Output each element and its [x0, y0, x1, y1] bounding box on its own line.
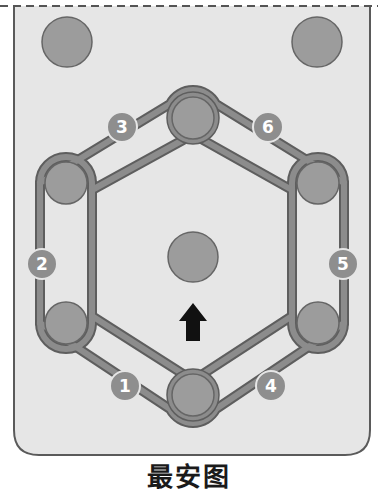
pulley-top-right	[292, 17, 342, 67]
svg-text:1: 1	[119, 376, 131, 396]
badge-5: 5	[328, 249, 358, 279]
pulley-hex-lower-right	[297, 302, 339, 344]
pulley-top-left	[42, 17, 92, 67]
pulley-hex-bottom	[167, 369, 219, 421]
badge-3: 3	[107, 112, 137, 142]
svg-text:3: 3	[116, 117, 128, 137]
svg-text:6: 6	[262, 117, 274, 137]
svg-text:2: 2	[36, 254, 48, 274]
badge-4: 4	[256, 371, 286, 401]
pulley-hex-top	[167, 92, 219, 144]
pulley-hex-lower-left	[45, 302, 87, 344]
pulley-hex-upper-left	[45, 162, 87, 204]
pulley-hex-upper-right	[297, 162, 339, 204]
svg-text:4: 4	[265, 376, 277, 396]
badge-1: 1	[110, 371, 140, 401]
svg-text:5: 5	[337, 254, 349, 274]
pulley-center	[168, 232, 218, 282]
badge-6: 6	[253, 112, 283, 142]
badge-2: 2	[27, 249, 57, 279]
diagram-caption: 最安图	[0, 456, 378, 493]
